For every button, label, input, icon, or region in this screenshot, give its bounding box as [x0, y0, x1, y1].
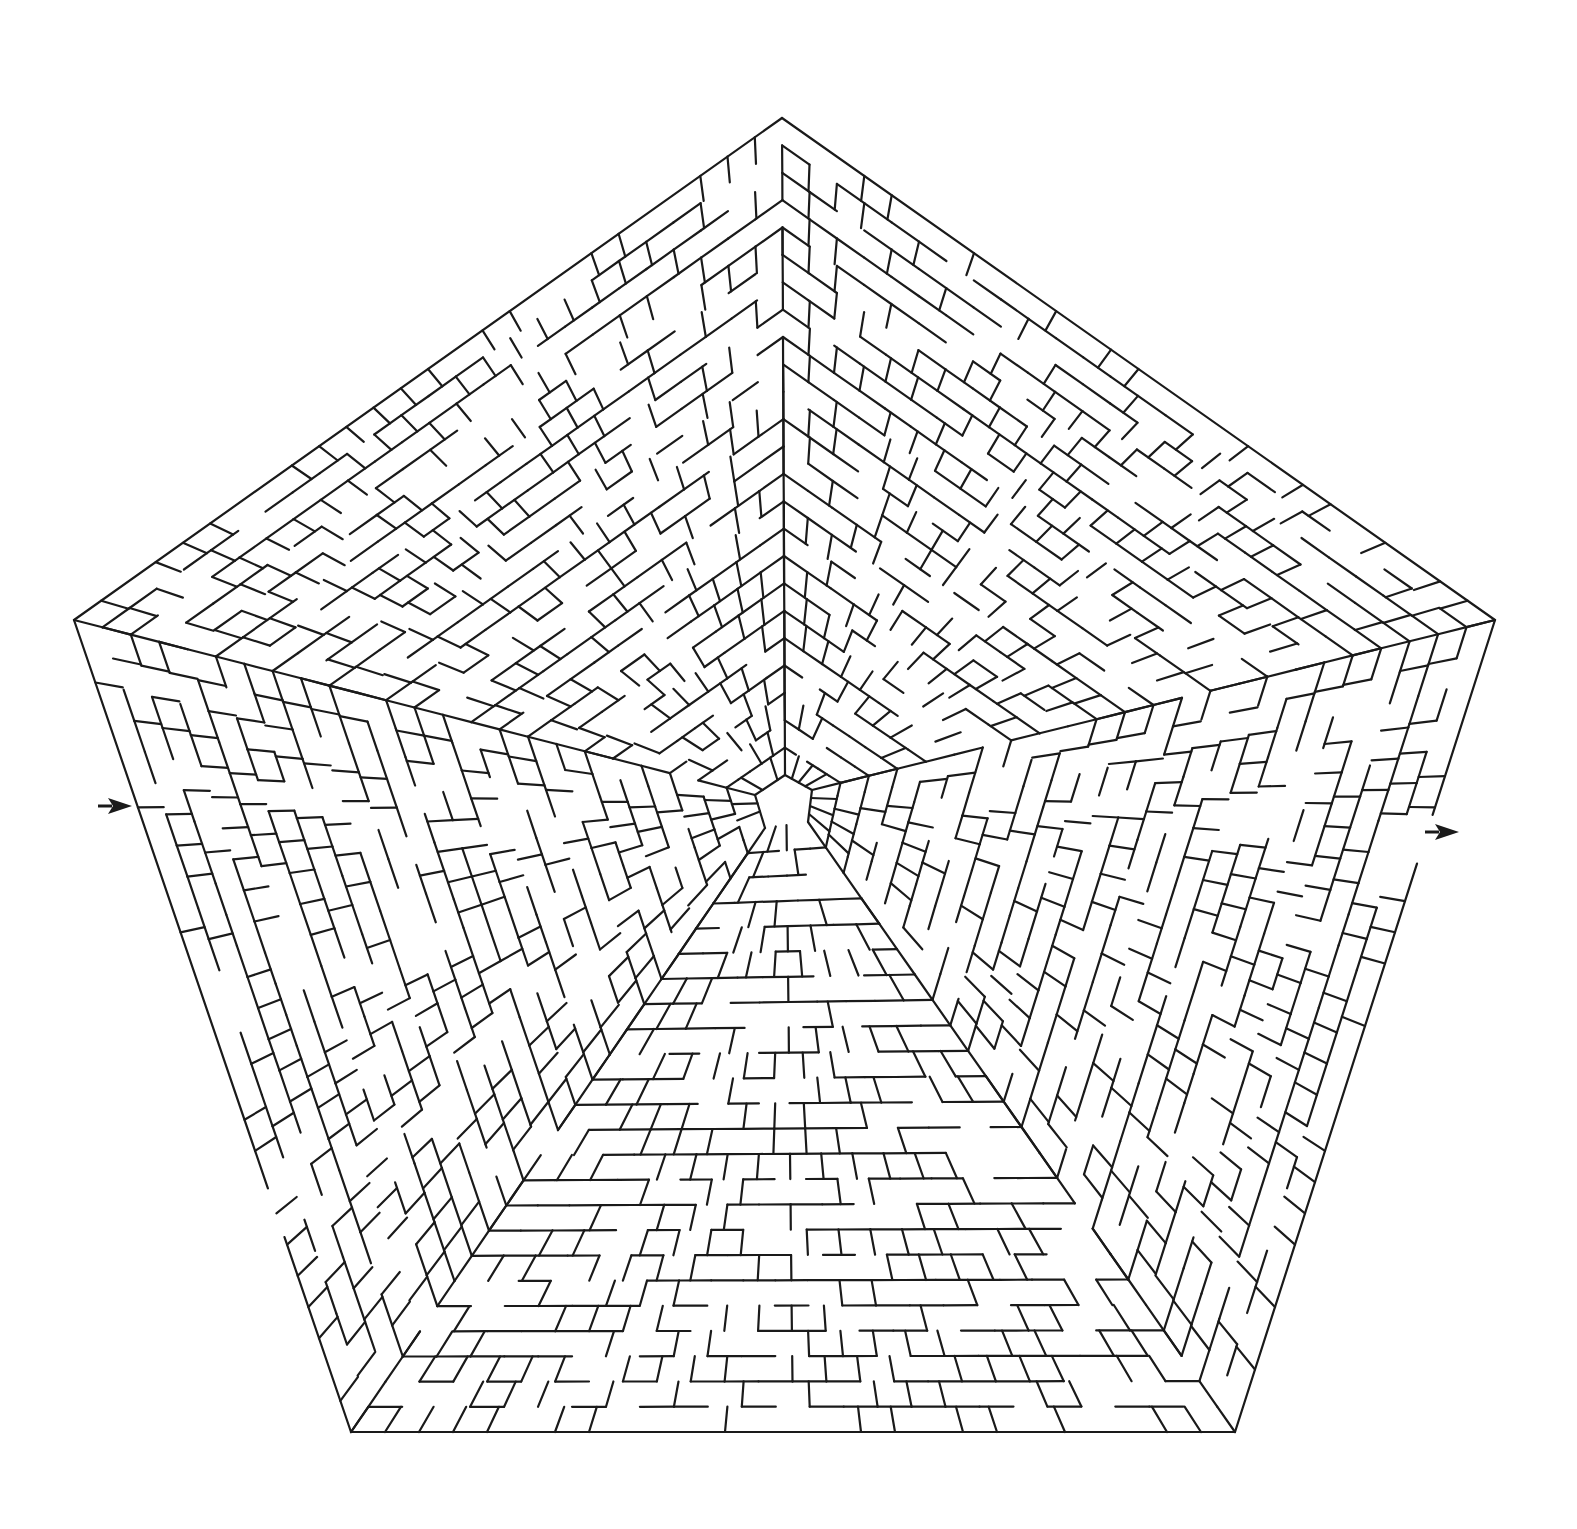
- exit-arrow-icon: [1425, 824, 1459, 840]
- entrance-arrow-icon: [98, 798, 132, 814]
- maze-walls: [74, 137, 1495, 1432]
- maze-board[interactable]: [0, 0, 1577, 1529]
